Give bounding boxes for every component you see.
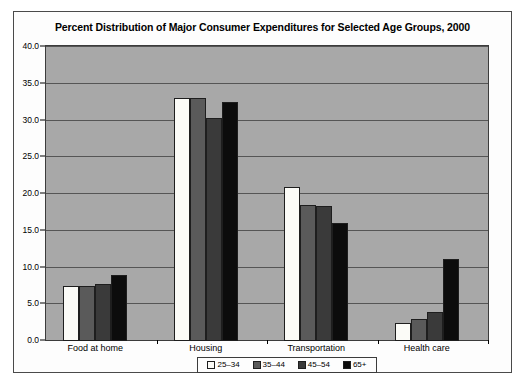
- y-tick-label: 20.0: [22, 188, 39, 198]
- legend-swatch-icon: [298, 361, 306, 369]
- bar-group: [174, 45, 238, 341]
- y-tick-label: 35.0: [22, 78, 39, 88]
- bar: [411, 319, 427, 341]
- legend-label: 25–34: [217, 361, 239, 369]
- bar-group: [395, 45, 459, 341]
- bar: [316, 206, 332, 341]
- bar: [332, 223, 348, 341]
- x-tick-mark: [378, 340, 379, 344]
- x-category-label: Health care: [404, 343, 450, 353]
- legend-item: 45–54: [298, 361, 330, 369]
- x-category-label: Food at home: [67, 343, 123, 353]
- y-tick-label: 30.0: [22, 115, 39, 125]
- y-tick-label: 15.0: [22, 225, 39, 235]
- bar: [284, 187, 300, 341]
- bar: [222, 102, 238, 341]
- bar: [206, 118, 222, 341]
- bar: [190, 98, 206, 341]
- legend-item: 35–44: [253, 361, 285, 369]
- bar: [427, 312, 443, 341]
- bar: [395, 323, 411, 341]
- x-category-label: Housing: [189, 343, 222, 353]
- legend-item: 65+: [343, 361, 367, 369]
- legend-label: 65+: [353, 361, 367, 369]
- bar: [443, 259, 459, 341]
- y-axis: 0.05.010.015.020.025.030.035.040.0: [14, 45, 44, 341]
- chart-figure-frame: Percent Distribution of Major Consumer E…: [13, 11, 512, 373]
- bars-layer: [45, 45, 489, 341]
- x-category-label: Transportation: [287, 343, 345, 353]
- legend-label: 45–54: [308, 361, 330, 369]
- x-tick-mark: [157, 340, 158, 344]
- bar: [174, 98, 190, 341]
- chart-legend: 25–3435–4445–5465+: [197, 357, 377, 373]
- chart-title: Percent Distribution of Major Consumer E…: [14, 21, 511, 33]
- bar: [300, 205, 316, 341]
- y-tick-label: 40.0: [22, 41, 39, 51]
- bar: [79, 286, 95, 341]
- bar-group: [63, 45, 127, 341]
- bar: [63, 286, 79, 341]
- x-tick-mark: [488, 340, 489, 344]
- y-tick-label: 0.0: [27, 335, 39, 345]
- bar: [95, 284, 111, 341]
- y-tick-label: 25.0: [22, 151, 39, 161]
- legend-swatch-icon: [207, 361, 215, 369]
- y-tick-label: 5.0: [27, 298, 39, 308]
- bar-group: [284, 45, 348, 341]
- x-tick-mark: [267, 340, 268, 344]
- legend-item: 25–34: [207, 361, 239, 369]
- legend-label: 35–44: [263, 361, 285, 369]
- bar: [111, 275, 127, 341]
- x-axis: Food at homeHousingTransportationHealth …: [45, 343, 489, 357]
- legend-swatch-icon: [343, 361, 351, 369]
- y-tick-label: 10.0: [22, 262, 39, 272]
- legend-swatch-icon: [253, 361, 261, 369]
